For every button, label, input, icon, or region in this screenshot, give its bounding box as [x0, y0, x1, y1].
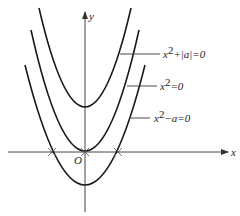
x-axis-label: x: [230, 146, 236, 158]
upper-curve-label: x2+|a|=0: [162, 44, 206, 60]
origin-label: O: [74, 154, 82, 166]
graph-canvas: x2+|a|=0 x2=0 x2−a=0 x y O: [0, 0, 240, 216]
parabola-diagram: x2+|a|=0 x2=0 x2−a=0 x y O: [0, 0, 240, 216]
middle-curve-label: x2=0: [159, 76, 184, 92]
y-axis-label: y: [88, 10, 94, 22]
lower-curve-label: x2−a=0: [153, 108, 191, 124]
